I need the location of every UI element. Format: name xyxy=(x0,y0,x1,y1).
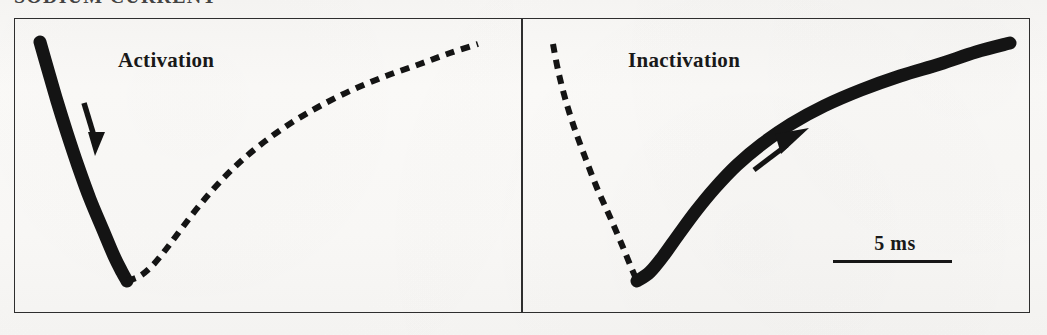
panel-label-activation: Activation xyxy=(118,48,214,73)
sodium-current-figure: SODIUM CURRENT Activation Inactivation 5… xyxy=(0,0,1047,335)
scale-bar: 5 ms xyxy=(833,232,957,263)
figure-title-remnant: SODIUM CURRENT xyxy=(14,0,434,7)
scale-bar-label: 5 ms xyxy=(833,232,957,255)
panel-label-inactivation: Inactivation xyxy=(628,48,740,73)
panel-divider xyxy=(521,19,523,312)
scale-bar-rule xyxy=(833,260,952,263)
